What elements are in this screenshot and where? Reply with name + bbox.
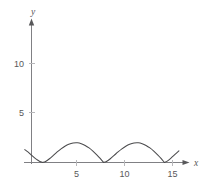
- x-tick-label-15: 15: [167, 169, 177, 179]
- y-axis-arrow-icon: [29, 19, 34, 26]
- x-tick-label-10: 10: [119, 169, 129, 179]
- x-tick-label-5: 5: [74, 169, 79, 179]
- y-tick-label-5: 5: [19, 108, 24, 118]
- figure-container: 10 5 5 10 15 y x: [0, 0, 212, 192]
- y-tick-label-10: 10: [14, 59, 24, 69]
- x-axis-arrow-icon: [183, 160, 190, 165]
- plot-svg: 10 5 5 10 15 y x: [0, 0, 212, 192]
- y-axis-label: y: [30, 7, 36, 17]
- cycloid-curve: [25, 143, 179, 163]
- x-axis-label: x: [193, 158, 199, 168]
